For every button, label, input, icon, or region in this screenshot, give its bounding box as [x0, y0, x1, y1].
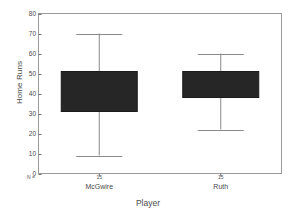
y-axis-tick-label: 20 [20, 131, 36, 138]
boxplot-box [61, 34, 137, 157]
y-axis-tick-label: 50 [20, 71, 36, 78]
box-body [183, 72, 259, 98]
x-axis-category-label: Ruth [213, 183, 228, 190]
y-axis-tick-label: 10 [20, 151, 36, 158]
x-axis-title: Player [0, 198, 296, 208]
y-axis-tick-labels: 80706050403020100 [18, 0, 36, 218]
x-axis-category-label: McGwire [85, 183, 113, 190]
box-series [61, 34, 259, 157]
box-body [61, 72, 137, 112]
y-axis-tick-label: 30 [20, 111, 36, 118]
n-value: 15 [218, 174, 224, 180]
boxplot-chart: Home Runs 80706050403020100 N = 15McGwir… [0, 0, 296, 218]
y-axis-tick-label: 60 [20, 51, 36, 58]
boxplot-box [183, 54, 259, 131]
y-axis-tick-label: 80 [20, 11, 36, 18]
plot-area [0, 0, 296, 218]
n-legend-label: N = [27, 174, 35, 180]
y-axis-tick-label: 70 [20, 31, 36, 38]
y-axis-tick-label: 40 [20, 91, 36, 98]
n-value: 15 [96, 174, 102, 180]
